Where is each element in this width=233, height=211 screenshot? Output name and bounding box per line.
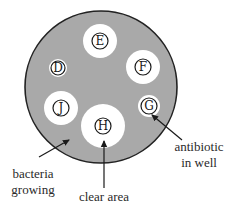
well-j: J (44, 91, 78, 125)
well-label: G (144, 99, 154, 113)
caption-antibiotic-line1: antibiotic (174, 139, 223, 154)
caption-clear-area: clear area (79, 189, 129, 204)
caption-antibiotic-line2: in well (181, 155, 217, 170)
well-label: J (57, 101, 64, 115)
well-label: H (98, 119, 108, 133)
well-g: G (138, 95, 160, 117)
well-d: D (49, 59, 67, 77)
well-label: F (139, 60, 147, 74)
well-e: E (83, 24, 117, 58)
well-f: F (126, 50, 160, 84)
caption-bacteria-line1: bacteria (12, 166, 53, 181)
well-label: D (53, 61, 63, 75)
well-label: E (96, 34, 105, 48)
agar-plate-diagram: EDFJHG antibiotic in well bacteria growi… (0, 0, 233, 211)
caption-bacteria-line2: growing (11, 182, 55, 197)
well-h: H (81, 104, 125, 148)
